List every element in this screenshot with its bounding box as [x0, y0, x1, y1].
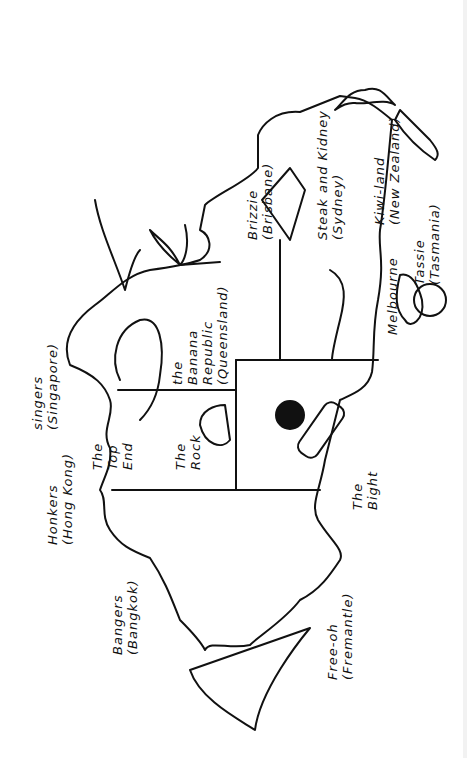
label-queensland: theBananaRepublic(Queensland) — [170, 285, 230, 385]
page-edge — [463, 0, 467, 758]
label-the-rock: TheRock — [173, 434, 203, 470]
uluru-rock — [200, 405, 230, 445]
label-tasmania: Tassie(Tasmania) — [412, 203, 442, 285]
label-hong-kong: Honkers(Hong Kong) — [45, 453, 75, 545]
crocodile — [115, 319, 162, 420]
label-melbourne: Melbourne — [385, 257, 400, 335]
label-top-end: TheTopEnd — [90, 442, 135, 470]
palm-tree-fronds — [150, 225, 187, 265]
new-zealand-north — [335, 89, 395, 110]
australia-map — [0, 0, 467, 758]
label-bangkok: Bangers(Bangkok) — [110, 579, 140, 655]
grapes — [276, 401, 304, 429]
label-new-zealand: Kiwi-land(New Zealand) — [372, 116, 402, 225]
sailboat — [190, 628, 310, 730]
label-singapore: singers(Singapore) — [30, 343, 60, 430]
label-the-bight: TheBight — [350, 471, 380, 510]
label-fremantle: Free-oh(Fremantle) — [325, 592, 355, 680]
apple — [414, 284, 446, 316]
label-brisbane: Brizzie(Brisbane) — [245, 163, 275, 240]
label-sydney: Steak and Kidney(Sydney) — [315, 110, 345, 240]
